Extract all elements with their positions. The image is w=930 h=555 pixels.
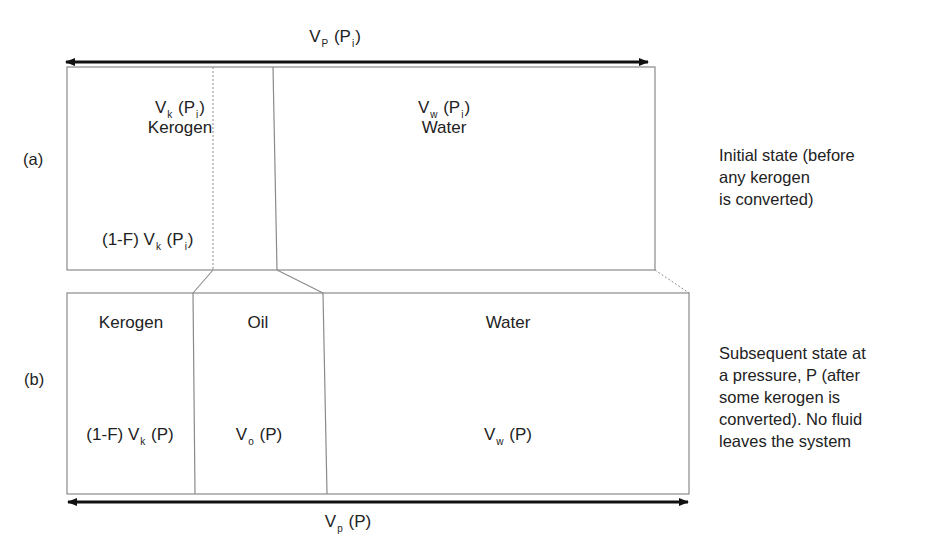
kerogen-volume-label-a: Vk (Pi) bbox=[155, 98, 205, 120]
oil-name-b: Oil bbox=[248, 313, 269, 333]
connector-kerogen-oil bbox=[193, 270, 213, 293]
total-volume-label-a: VP (Pi) bbox=[309, 27, 361, 49]
oil-volume-label-b: Vo (P) bbox=[236, 425, 282, 447]
kerogen-water-divider-a bbox=[273, 67, 277, 270]
connector-oil-water bbox=[277, 270, 323, 293]
kerogen-name-b: Kerogen bbox=[99, 313, 163, 333]
water-volume-label-b: Vw (P) bbox=[484, 425, 532, 447]
description-subsequent-state: Subsequent state at a pressure, P (after… bbox=[719, 342, 866, 452]
panel-tag-b: (b) bbox=[24, 370, 44, 389]
oil-water-divider-b bbox=[323, 293, 327, 494]
description-initial-state: Initial state (before any kerogen is con… bbox=[719, 144, 855, 210]
panel-tag-a: (a) bbox=[23, 150, 43, 169]
water-name-a: Water bbox=[422, 118, 467, 138]
kerogen-oil-divider-b bbox=[193, 293, 195, 494]
diagram-canvas bbox=[0, 0, 930, 555]
connector-right-edge bbox=[655, 270, 689, 293]
kerogen-volume-label-b: (1-F) Vk (P) bbox=[86, 425, 173, 447]
unconverted-kerogen-label-a: (1-F) Vk (Pi) bbox=[102, 230, 194, 252]
water-name-b: Water bbox=[486, 313, 531, 333]
water-volume-label-a: Vw (Pi) bbox=[418, 98, 470, 120]
kerogen-name-a: Kerogen bbox=[148, 118, 212, 138]
total-volume-label-b: Vp (P) bbox=[325, 512, 371, 534]
